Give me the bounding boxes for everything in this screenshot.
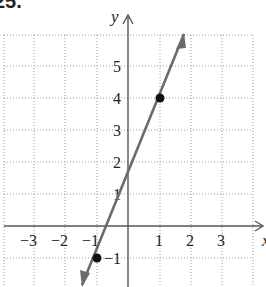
x-tick-label: 1: [155, 232, 163, 249]
x-tick-label: −2: [51, 232, 68, 249]
y-tick-label: 5: [113, 58, 121, 75]
y-tick-label: 2: [113, 154, 121, 171]
problem-number: 25.: [0, 0, 22, 12]
data-point: [93, 254, 102, 263]
coordinate-graph: 25. y x −-33 −2 −1 1 2 3: [0, 0, 266, 287]
x-axis-label: x: [261, 231, 266, 250]
x-tick-label: 3: [217, 232, 225, 249]
y-axis-label: y: [109, 7, 119, 26]
y-tick-label: 4: [113, 90, 121, 107]
x-tick-labels: −-33 −2 −1 1 2 3: [20, 232, 225, 249]
x-tick-label: 2: [186, 232, 194, 249]
y-tick-label: 3: [113, 122, 121, 139]
y-tick-label: −1: [104, 250, 121, 267]
line-series: [80, 33, 186, 287]
data-point: [156, 94, 165, 103]
x-tick-label: −-33: [20, 232, 37, 249]
